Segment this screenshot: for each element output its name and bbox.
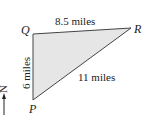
- side-pr-label: 11 miles: [78, 71, 115, 83]
- side-qp-label: 6 miles: [20, 57, 32, 89]
- north-arrow-icon: N: [0, 85, 9, 115]
- side-qr-label: 8.5 miles: [55, 15, 95, 27]
- vertex-r-label: R: [133, 22, 142, 36]
- triangle-pqr: [33, 28, 131, 100]
- vertex-p-label: P: [28, 102, 37, 116]
- compass-n-label: N: [0, 85, 9, 93]
- vertex-q-label: Q: [21, 23, 30, 37]
- triangle-diagram: Q R P 8.5 miles 6 miles 11 miles N: [0, 0, 152, 122]
